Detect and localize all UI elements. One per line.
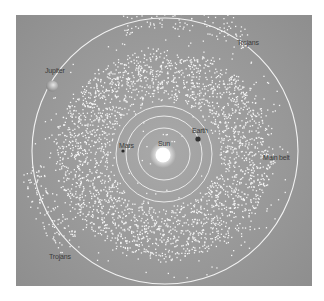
mars-icon: [121, 149, 124, 152]
label-mars: Mars: [119, 142, 134, 149]
earth-icon: [195, 136, 200, 141]
label-earth: Earth: [192, 127, 208, 134]
label-main-belt: Main belt: [263, 154, 290, 161]
diagram-canvas: [16, 15, 312, 286]
jupiter-icon: [46, 81, 58, 92]
label-jupiter: Jupiter: [45, 67, 65, 74]
solar-system-diagram: Jupiter Trojans Earth Mars Sun Main belt…: [16, 15, 312, 286]
label-trojans-lower: Trojans: [49, 253, 71, 260]
label-trojans-upper: Trojans: [237, 39, 259, 46]
label-sun: Sun: [158, 140, 170, 147]
sun-icon: [156, 148, 171, 163]
